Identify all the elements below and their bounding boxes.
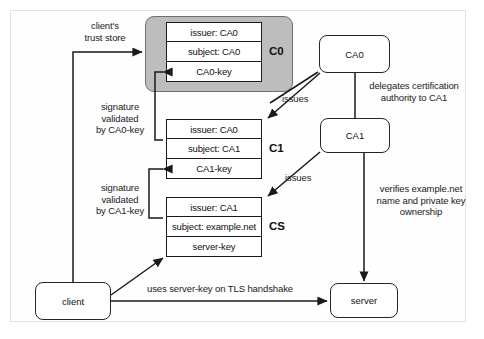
cert-row: subject: CA0 xyxy=(167,42,261,61)
node-ca1[interactable]: CA1 xyxy=(320,118,390,153)
cert-row: subject: example.net xyxy=(167,217,261,236)
node-client[interactable]: client xyxy=(35,282,111,320)
cert-row: issuer: CA0 xyxy=(167,23,261,42)
cert-row: issuer: CA1 xyxy=(167,198,261,217)
certificate-c1: issuer: CA0 subject: CA1 CA1-key xyxy=(166,119,262,179)
certificate-c0: issuer: CA0 subject: CA0 CA0-key xyxy=(166,22,262,82)
cert-row: issuer: CA0 xyxy=(167,120,261,139)
label-signature-ca1: signature validated by CA1-key xyxy=(85,182,155,217)
label-delegates: delegates certification authority to CA1 xyxy=(358,80,470,103)
node-server[interactable]: server xyxy=(330,283,398,318)
cert-row: subject: CA1 xyxy=(167,139,261,158)
label-issues-cs: issues xyxy=(285,172,325,184)
certificate-cs: issuer: CA1 subject: example.net server-… xyxy=(166,197,262,257)
label-signature-ca0: signature validated by CA0-key xyxy=(85,101,155,136)
label-issues-c0: issues xyxy=(282,93,322,105)
cert-row: server-key xyxy=(167,237,261,256)
diagram-canvas: issuer: CA0 subject: CA0 CA0-key C0 issu… xyxy=(0,0,484,339)
certificate-c0-tag: C0 xyxy=(269,45,284,57)
certificate-c1-tag: C1 xyxy=(269,142,284,154)
node-ca0[interactable]: CA0 xyxy=(319,35,390,73)
certificate-cs-tag: CS xyxy=(269,220,285,232)
label-trust-store: client's trust store xyxy=(60,20,150,43)
cert-row: CA0-key xyxy=(167,62,261,81)
label-handshake: uses server-key on TLS handshake xyxy=(130,283,310,295)
cert-row: CA1-key xyxy=(167,159,261,178)
label-verifies: verifies example.net name and private ke… xyxy=(368,183,474,218)
